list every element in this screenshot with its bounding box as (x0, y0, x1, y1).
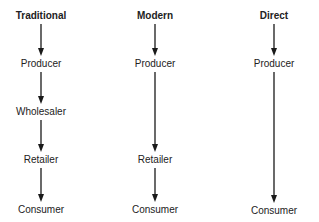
arrowhead-icon (38, 194, 44, 202)
arrowhead-icon (38, 48, 44, 56)
node-traditional-consumer: Consumer (18, 204, 64, 216)
node-traditional-wholesaler: Wholesaler (16, 106, 66, 118)
column-title-traditional: Traditional (16, 10, 67, 22)
arrowhead-icon (38, 96, 44, 104)
node-traditional-retailer: Retailer (24, 154, 58, 166)
node-modern-producer: Producer (135, 58, 176, 70)
arrowhead-icon (152, 194, 158, 202)
node-traditional-producer: Producer (21, 58, 62, 70)
node-modern-consumer: Consumer (132, 204, 178, 216)
column-title-modern: Modern (137, 10, 173, 22)
arrowhead-icon (152, 48, 158, 56)
arrowhead-icon (271, 48, 277, 56)
node-direct-producer: Producer (254, 58, 295, 70)
node-direct-consumer: Consumer (251, 205, 297, 217)
arrowhead-icon (38, 144, 44, 152)
arrowhead-icon (152, 144, 158, 152)
arrowhead-icon (271, 195, 277, 203)
node-modern-retailer: Retailer (138, 154, 172, 166)
column-title-direct: Direct (260, 10, 288, 22)
